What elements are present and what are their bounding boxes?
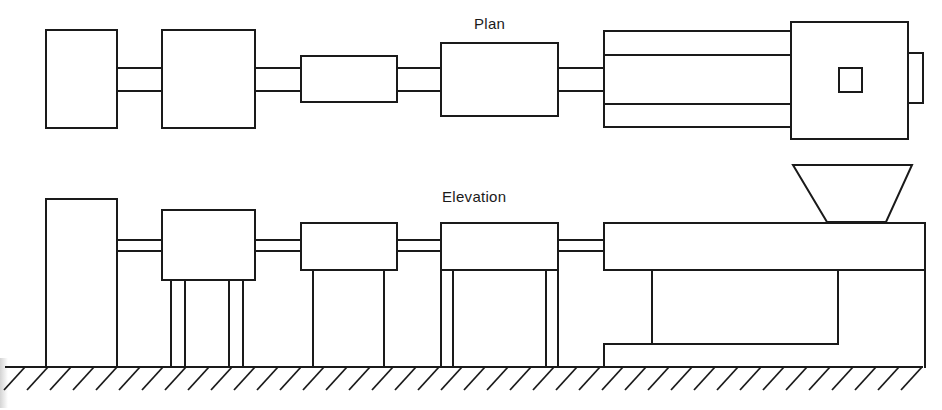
ground-hatch [280,367,301,390]
ground-hatch [579,367,600,390]
ground-hatch [740,367,761,390]
ground [4,367,922,390]
ground-hatch [510,367,531,390]
ground-hatch [303,367,324,390]
ground-hatch [625,367,646,390]
ground-hatch [119,367,140,390]
ground-hatch [855,367,876,390]
extruder-line-diagram [0,0,942,410]
plan-view [46,22,923,139]
ground-hatch [326,367,347,390]
ground-hatch [96,367,117,390]
ground-hatch [786,367,807,390]
ground-hatch [349,367,370,390]
ground-hatch [73,367,94,390]
ground-hatch [763,367,784,390]
ground-hatch [211,367,232,390]
ground-hatch [188,367,209,390]
plan-extruder-barrel [604,31,791,127]
ground-hatching [4,367,922,390]
plan-hopper-opening [839,68,862,92]
elev-unit-2 [162,210,255,280]
ground-hatch [901,367,922,390]
plan-unit-2 [162,30,255,128]
elev-unit-3 [301,223,397,270]
plan-extruder-drive-housing [791,22,908,139]
ground-hatch [809,367,830,390]
plan-unit-1 [46,30,117,128]
elev-extruder-barrel [604,223,925,270]
ground-hatch [165,367,186,390]
plan-view-label: Plan [474,15,505,32]
ground-hatch [464,367,485,390]
ground-hatch [556,367,577,390]
ground-hatch [441,367,462,390]
elev-base-frame-foot [604,344,652,367]
ground-hatch [533,367,554,390]
ground-hatch [694,367,715,390]
ground-hatch [257,367,278,390]
elev-hopper [793,165,912,222]
ground-hatch [418,367,439,390]
ground-hatch [395,367,416,390]
ground-hatch [832,367,853,390]
elevation-view-label: Elevation [442,188,506,205]
elev-base-frame-cutout [652,270,838,344]
elev-unit-4 [441,223,558,270]
plan-unit-4 [441,43,558,116]
ground-hatch [27,367,48,390]
ground-hatch [4,367,25,390]
ground-hatch [142,367,163,390]
ground-hatch [487,367,508,390]
ground-hatch [50,367,71,390]
ground-hatch [878,367,899,390]
ground-hatch [717,367,738,390]
ground-hatch [372,367,393,390]
ground-hatch [648,367,669,390]
plan-end-tab [908,53,923,103]
plan-unit-3 [301,56,397,102]
elev-unit-1 [46,199,117,367]
ground-hatch [602,367,623,390]
ground-hatch [234,367,255,390]
ground-hatch [671,367,692,390]
